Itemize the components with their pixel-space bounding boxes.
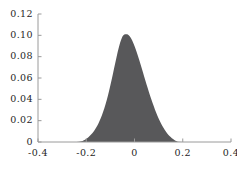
y-tick-label: 0.08 bbox=[10, 50, 33, 61]
y-tick-label: 0.04 bbox=[10, 93, 33, 104]
y-axis-ticks bbox=[38, 14, 42, 142]
x-tick-label: 0.2 bbox=[158, 147, 208, 158]
x-axis-ticks bbox=[38, 139, 231, 143]
y-tick-label: 0.12 bbox=[10, 8, 33, 19]
density-area-fill bbox=[38, 34, 231, 142]
y-tick-label: 0 bbox=[27, 136, 33, 147]
x-tick-label: -0.2 bbox=[61, 147, 111, 158]
plot-area bbox=[38, 14, 231, 142]
x-tick-label: -0.4 bbox=[13, 147, 63, 158]
x-tick-label: 0.4 bbox=[206, 147, 237, 158]
density-plot bbox=[0, 0, 237, 170]
x-tick-label: 0 bbox=[110, 147, 160, 158]
y-tick-label: 0.06 bbox=[10, 72, 33, 83]
y-tick-label: 0.02 bbox=[10, 114, 33, 125]
y-tick-label: 0.10 bbox=[10, 29, 33, 40]
chart-figure: 00.020.040.060.080.100.12 -0.4-0.200.20.… bbox=[0, 0, 237, 170]
